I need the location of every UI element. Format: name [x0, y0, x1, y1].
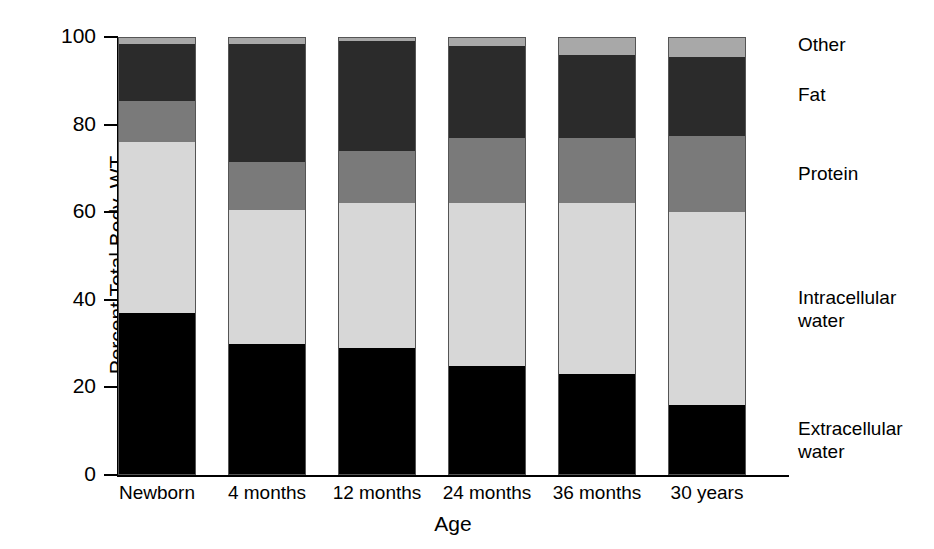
- y-tick-mark: [104, 36, 118, 38]
- y-tick-mark: [104, 211, 118, 213]
- bar-outline: [338, 37, 416, 475]
- legend-label-line: Intracellular: [798, 286, 896, 309]
- legend-label-line: Extracellular: [798, 417, 903, 440]
- x-tick-label-30-years: 30 years: [647, 482, 767, 504]
- legend-label-line: water: [798, 440, 903, 463]
- bar-outline: [228, 37, 306, 475]
- bar-36-months[interactable]: [558, 37, 636, 475]
- bar-outline: [668, 37, 746, 475]
- y-tick: 40: [0, 299, 118, 301]
- y-tick: 0: [0, 474, 118, 476]
- legend-label-fat: Fat: [798, 83, 825, 106]
- y-tick: 80: [0, 124, 118, 126]
- y-tick-label: 20: [36, 375, 96, 396]
- y-tick-mark: [104, 386, 118, 388]
- legend-label-protein: Protein: [798, 162, 858, 185]
- bar-24-months[interactable]: [448, 37, 526, 475]
- x-tick-label-36-months: 36 months: [537, 482, 657, 504]
- x-tick-label-24-months: 24 months: [427, 482, 547, 504]
- x-tick-label-12-months: 12 months: [317, 482, 437, 504]
- bar-30-years[interactable]: [668, 37, 746, 475]
- y-tick: 20: [0, 386, 118, 388]
- stacked-bar-chart: Percent Total Body, WT 020406080100 Newb…: [0, 0, 934, 549]
- y-tick-label: 60: [36, 200, 96, 221]
- legend-label-other: Other: [798, 33, 846, 56]
- y-tick-mark: [104, 299, 118, 301]
- x-tick-label-newborn: Newborn: [97, 482, 217, 504]
- y-tick-label: 40: [36, 288, 96, 309]
- legend-label-extracellular-water: Extracellularwater: [798, 417, 903, 463]
- bar-newborn[interactable]: [118, 37, 196, 475]
- x-tick-label-4-months: 4 months: [207, 482, 327, 504]
- plot-area: [117, 37, 789, 475]
- bar-outline: [118, 37, 196, 475]
- bar-4-months[interactable]: [228, 37, 306, 475]
- bar-12-months[interactable]: [338, 37, 416, 475]
- y-tick-mark: [104, 124, 118, 126]
- y-tick-label: 0: [36, 463, 96, 484]
- legend-label-line: water: [798, 309, 896, 332]
- bar-outline: [448, 37, 526, 475]
- x-axis-line: [117, 475, 789, 477]
- legend-label-intracellular-water: Intracellularwater: [798, 286, 896, 332]
- y-tick-label: 100: [36, 25, 96, 46]
- y-tick-label: 80: [36, 113, 96, 134]
- y-tick-mark: [104, 474, 118, 476]
- x-axis-title: Age: [117, 512, 789, 536]
- y-tick: 60: [0, 211, 118, 213]
- bar-outline: [558, 37, 636, 475]
- y-tick: 100: [0, 36, 118, 38]
